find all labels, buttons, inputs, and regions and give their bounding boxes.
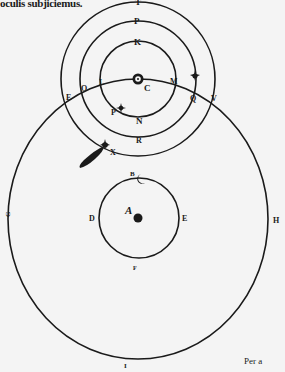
- label-star-P: P: [111, 108, 116, 117]
- label-G: G: [4, 211, 12, 217]
- label-A: A: [124, 204, 132, 216]
- label-T: T: [135, 0, 141, 7]
- label-L: L: [99, 78, 104, 87]
- label-N: N: [136, 116, 143, 126]
- label-H: H: [273, 216, 280, 225]
- book-page: oculis subjiciemus.: [0, 0, 285, 372]
- label-O: O: [81, 84, 87, 93]
- label-E-left: E: [66, 93, 71, 102]
- label-R: R: [136, 136, 142, 145]
- earth-dot-icon: [134, 214, 143, 223]
- sun-icon: [133, 74, 144, 85]
- label-E: E: [182, 214, 187, 223]
- label-X: X: [110, 148, 116, 157]
- orbital-diagram: T P K C L M O E Q V P N R X B D E F A G …: [0, 0, 285, 372]
- label-V: V: [211, 94, 217, 103]
- label-Q: Q: [190, 94, 196, 103]
- label-D: D: [89, 214, 95, 223]
- catchword: Per a: [244, 356, 262, 366]
- label-K: K: [134, 37, 141, 47]
- label-P: P: [134, 16, 140, 26]
- label-F: F: [133, 265, 137, 271]
- label-B: B: [130, 170, 135, 178]
- label-I: I: [124, 362, 127, 370]
- label-C: C: [144, 83, 151, 93]
- star-icon-right: [190, 70, 200, 81]
- label-M: M: [170, 77, 178, 86]
